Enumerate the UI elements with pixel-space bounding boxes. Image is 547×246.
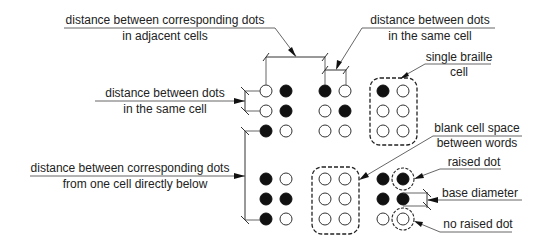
label-no-raised-dot: no raised dot bbox=[414, 217, 513, 232]
flat-dot bbox=[319, 105, 331, 117]
raised-dot bbox=[260, 213, 272, 225]
raised-dot bbox=[280, 105, 292, 117]
flat-dot bbox=[397, 105, 409, 117]
raised-dot bbox=[260, 125, 272, 137]
raised-dot bbox=[260, 173, 272, 185]
raised-dot bbox=[339, 105, 351, 117]
dim-cell-below bbox=[241, 127, 260, 224]
svg-text:single braille: single braille bbox=[426, 50, 493, 64]
raised-dot bbox=[260, 193, 272, 205]
flat-dot bbox=[339, 125, 351, 137]
label-adjacent-cells: distance between corresponding dots in a… bbox=[64, 13, 296, 57]
raised-dot bbox=[319, 85, 331, 97]
dim-same-cell-horizontal bbox=[322, 66, 349, 85]
svg-text:in the same cell: in the same cell bbox=[388, 29, 471, 43]
flat-dot bbox=[339, 85, 351, 97]
flat-dot bbox=[280, 173, 292, 185]
dim-adjacent-cells bbox=[263, 53, 328, 85]
raised-dot bbox=[377, 85, 389, 97]
label-raised-dot: raised dot bbox=[414, 155, 501, 179]
flat-dot bbox=[397, 85, 409, 97]
flat-dot bbox=[319, 213, 331, 225]
svg-text:distance between corresponding: distance between corresponding dots bbox=[31, 161, 230, 175]
braille-diagram: distance between corresponding dots in a… bbox=[0, 0, 547, 246]
label-single-cell: single braille cell bbox=[400, 50, 493, 79]
flat-dot bbox=[319, 125, 331, 137]
svg-text:distance between dots: distance between dots bbox=[370, 13, 489, 27]
raised-dot bbox=[377, 173, 389, 185]
flat-dot bbox=[397, 213, 409, 225]
flat-dot bbox=[397, 125, 409, 137]
svg-text:in the same cell: in the same cell bbox=[123, 102, 206, 116]
raised-dot bbox=[280, 85, 292, 97]
label-same-cell-left: distance between dots in the same cell bbox=[95, 86, 245, 116]
flat-dot bbox=[377, 125, 389, 137]
label-base-diameter: base diameter bbox=[403, 186, 522, 210]
flat-dot bbox=[377, 105, 389, 117]
flat-dot bbox=[280, 125, 292, 137]
raised-dot bbox=[280, 193, 292, 205]
svg-text:blank cell space: blank cell space bbox=[434, 121, 520, 135]
flat-dot bbox=[377, 213, 389, 225]
flat-dot bbox=[339, 173, 351, 185]
flat-dot bbox=[319, 193, 331, 205]
svg-text:from one cell directly below: from one cell directly below bbox=[63, 177, 208, 191]
svg-text:raised dot: raised dot bbox=[448, 155, 501, 169]
svg-text:cell: cell bbox=[450, 65, 468, 79]
svg-text:between words: between words bbox=[437, 136, 518, 150]
flat-dot bbox=[280, 213, 292, 225]
svg-text:distance between corresponding: distance between corresponding dots bbox=[66, 13, 265, 27]
raised-dot bbox=[397, 173, 409, 185]
raised-dot bbox=[377, 193, 389, 205]
svg-text:in adjacent cells: in adjacent cells bbox=[122, 29, 207, 43]
svg-text:distance between dots: distance between dots bbox=[105, 86, 224, 100]
svg-text:no raised dot: no raised dot bbox=[443, 217, 513, 231]
braille-dot-grid bbox=[260, 85, 409, 225]
flat-dot bbox=[260, 85, 272, 97]
label-cell-below: distance between corresponding dots from… bbox=[30, 161, 245, 191]
raised-dot bbox=[397, 193, 409, 205]
flat-dot bbox=[260, 105, 272, 117]
svg-text:base diameter: base diameter bbox=[442, 186, 518, 200]
flat-dot bbox=[339, 213, 351, 225]
flat-dot bbox=[319, 173, 331, 185]
flat-dot bbox=[339, 193, 351, 205]
